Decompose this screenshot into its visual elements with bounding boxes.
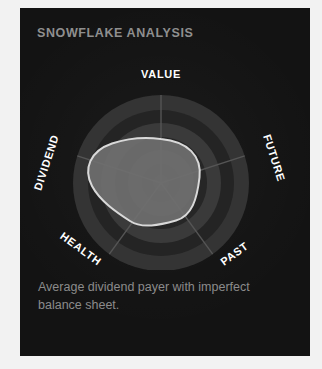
- axis-label-future: FUTURE: [261, 133, 287, 183]
- screenshot-root: SNOWFLAKE ANALYSIS: [0, 0, 322, 369]
- snowflake-radar-chart[interactable]: VALUE FUTURE PAST HEALTH DIVIDEND: [20, 38, 310, 270]
- radar-svg: VALUE FUTURE PAST HEALTH DIVIDEND: [20, 38, 310, 270]
- chart-caption: Average dividend payer with imperfect ba…: [38, 278, 294, 314]
- snowflake-analysis-card: SNOWFLAKE ANALYSIS: [20, 8, 310, 356]
- axis-label-dividend: DIVIDEND: [32, 133, 61, 192]
- axis-label-value: VALUE: [141, 68, 181, 80]
